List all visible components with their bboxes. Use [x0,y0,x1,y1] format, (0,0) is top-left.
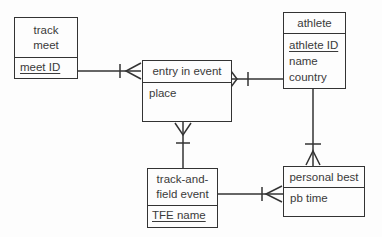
connector-athlete-pb [305,89,321,166]
attribute-tfe-name: TFE name [148,206,217,225]
entity-attributes: place [143,83,231,100]
entity-entry-in-event: entry in event place [142,60,232,122]
entity-title: track-and-field event [148,169,217,206]
connector-tfe-pb [218,186,283,202]
er-diagram-canvas: track meet meet ID entry in event place … [0,0,382,237]
connector-athlete-entry [231,71,283,87]
entity-attributes: meet ID [15,58,77,77]
attribute-athlete-id: athlete ID [284,37,345,53]
entity-personal-best: personal best pb time [283,166,365,217]
entity-title: athlete [284,13,345,34]
attribute-meet-id: meet ID [15,58,77,77]
connector-tfe-entry [175,122,191,168]
entity-track-and-field-event: track-and-field event TFE name [147,168,218,228]
connector-track-meet-entry [78,63,141,79]
entity-attributes: athlete ID name country [284,34,345,85]
entity-attributes: TFE name [148,206,217,225]
entity-athlete: athlete athlete ID name country [283,12,346,89]
entity-title: entry in event [143,61,231,83]
entity-title: personal best [284,167,364,188]
attribute-country: country [284,69,345,85]
attribute-name: name [284,53,345,69]
entity-attributes: pb time [284,188,364,206]
entity-track-meet: track meet meet ID [14,17,78,79]
attribute-pb-time: pb time [284,190,364,206]
entity-title: track meet [15,18,77,58]
attribute-place: place [143,86,231,100]
